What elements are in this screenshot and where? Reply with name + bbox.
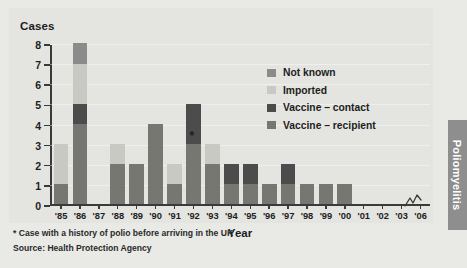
stacked-bar[interactable] (186, 104, 201, 205)
y-axis-tick (44, 205, 50, 207)
stacked-bar[interactable] (205, 144, 220, 204)
legend-swatch-icon (267, 104, 276, 112)
bar-slot: '93 (203, 45, 222, 204)
x-axis-tick-label: '98 (301, 211, 314, 221)
legend-item-label: Vaccine – contact (283, 102, 369, 113)
legend-item[interactable]: Imported (267, 82, 376, 100)
stacked-bar[interactable] (54, 144, 69, 204)
y-axis-tick (44, 185, 50, 187)
legend-item[interactable]: Not known (267, 64, 376, 82)
x-axis-tick-label: '96 (263, 211, 276, 221)
footnote-text: * Case with a history of polio before ar… (13, 228, 413, 238)
bar-segment (224, 184, 239, 204)
y-axis-tick (44, 64, 50, 66)
x-axis-tick (117, 204, 118, 209)
legend-item-label: Imported (283, 85, 327, 96)
stacked-bar[interactable] (319, 184, 334, 204)
side-tab-label: Poliomyelitis (452, 140, 464, 210)
x-axis-tick (193, 204, 194, 209)
stacked-bar[interactable] (262, 184, 277, 204)
bar-segment (110, 164, 125, 204)
x-axis-tick-label: '03 (395, 211, 408, 221)
stacked-bar[interactable] (73, 43, 88, 204)
bar-slot: '92 (184, 45, 203, 204)
x-axis-tick (212, 204, 213, 209)
x-axis-tick (344, 204, 345, 209)
x-axis-tick (306, 204, 307, 209)
x-axis-tick-label: '95 (244, 211, 257, 221)
y-axis-tick-label: 3 (35, 140, 41, 152)
legend-swatch-icon (267, 69, 276, 77)
x-axis-tick-label: '91 (168, 211, 181, 221)
y-axis-tick (44, 44, 50, 46)
legend-item-label: Not known (283, 67, 336, 78)
bar-slot: '02 (373, 45, 392, 204)
x-axis-tick (287, 204, 288, 209)
bar-slot: '88 (108, 45, 127, 204)
y-axis-title: Cases (20, 20, 54, 32)
y-axis-tick-label: 0 (35, 200, 41, 212)
bar-slot: '85 (52, 45, 71, 204)
bar-segment (205, 164, 220, 204)
bar-slot: '03 (392, 45, 411, 204)
x-axis-tick-label: '88 (112, 211, 125, 221)
y-axis-tick-label: 1 (35, 180, 41, 192)
y-axis-tick-label: 5 (35, 99, 41, 111)
legend-item[interactable]: Vaccine – recipient (267, 117, 376, 135)
x-axis-tick-label: '85 (55, 211, 68, 221)
x-axis-tick (79, 204, 80, 209)
bar-segment (205, 144, 220, 164)
y-axis-tick (44, 145, 50, 147)
x-axis-tick-label: '94 (225, 211, 238, 221)
stacked-bar[interactable] (110, 144, 125, 204)
x-axis-line (50, 204, 430, 206)
legend-item[interactable]: Vaccine – contact (267, 99, 376, 117)
bar-segment (73, 43, 88, 63)
y-axis-tick (44, 125, 50, 127)
y-axis-tick-label: 6 (35, 79, 41, 91)
chart-panel: Cases 012345678 '85'86'87'88'89'90'91'92… (9, 8, 433, 223)
bar-segment (54, 144, 69, 184)
x-axis-tick-label: '02 (376, 211, 389, 221)
axis-break-icon (404, 194, 422, 207)
bar-slot: '86 (71, 45, 90, 204)
x-axis-tick (60, 204, 61, 209)
side-tab[interactable]: Poliomyelitis (448, 120, 467, 230)
stacked-bar[interactable] (148, 124, 163, 205)
stacked-bar[interactable] (243, 164, 258, 204)
x-axis-tick-label: '86 (74, 211, 87, 221)
bar-segment (186, 144, 201, 204)
bar-segment (243, 184, 258, 204)
stacked-bar[interactable] (337, 184, 352, 204)
chart-legend: Not knownImportedVaccine – contactVaccin… (267, 64, 376, 134)
x-axis-tick (155, 204, 156, 209)
bar-segment (167, 164, 182, 184)
x-axis-tick (363, 204, 364, 209)
bar-segment (337, 184, 352, 204)
bar-segment (167, 184, 182, 204)
bar-segment (281, 164, 296, 184)
bar-slot: '90 (146, 45, 165, 204)
bar-segment (73, 104, 88, 124)
bar-slot: '91 (165, 45, 184, 204)
bar-segment (224, 164, 239, 184)
legend-swatch-icon (267, 121, 276, 129)
y-axis-tick (44, 165, 50, 167)
x-axis-tick-label: '87 (93, 211, 106, 221)
legend-swatch-icon (267, 86, 276, 94)
x-axis-tick (250, 204, 251, 209)
y-axis-tick (44, 84, 50, 86)
stacked-bar[interactable] (167, 164, 182, 204)
stacked-bar[interactable] (281, 164, 296, 204)
stacked-bar[interactable] (300, 184, 315, 204)
x-axis-tick-label: '92 (187, 211, 200, 221)
annotation-asterisk: * (190, 130, 195, 142)
bar-slot: '06 (411, 45, 430, 204)
stacked-bar[interactable] (224, 164, 239, 204)
x-axis-tick-label: '97 (282, 211, 295, 221)
x-axis-tick (268, 204, 269, 209)
bar-segment (243, 164, 258, 184)
bar-segment (129, 164, 144, 204)
stacked-bar[interactable] (129, 164, 144, 204)
x-axis-tick-label: '99 (320, 211, 333, 221)
